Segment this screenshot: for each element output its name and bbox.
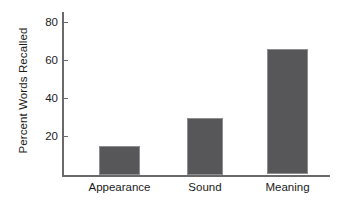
y-tick-label: 60 — [18, 55, 58, 67]
x-axis-line — [62, 175, 330, 177]
y-tick-mark — [63, 98, 68, 99]
bar-meaning — [267, 49, 308, 174]
y-tick-label: 20 — [18, 131, 58, 143]
y-tick-label: 40 — [18, 93, 58, 105]
y-axis-line — [62, 12, 64, 176]
y-tick-mark — [63, 60, 68, 61]
y-tick-mark — [63, 136, 68, 137]
y-tick-label: 80 — [18, 17, 58, 29]
bar-chart: Percent Words Recalled 20406080 Appearan… — [0, 0, 350, 208]
y-axis-title: Percent Words Recalled — [14, 3, 32, 178]
bar-sound — [187, 118, 223, 175]
bar-appearance — [99, 146, 140, 175]
x-label-meaning: Meaning — [238, 181, 338, 193]
y-tick-mark — [63, 22, 68, 23]
